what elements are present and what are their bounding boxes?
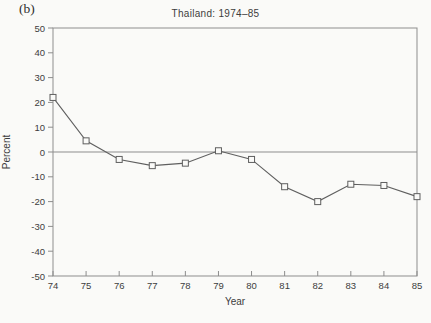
data-point-77 bbox=[149, 163, 155, 169]
data-point-83 bbox=[348, 181, 354, 187]
x-tick-label: 77 bbox=[147, 280, 158, 291]
x-tick-label: 85 bbox=[412, 280, 423, 291]
data-line bbox=[53, 97, 417, 201]
data-point-80 bbox=[249, 156, 255, 162]
data-point-74 bbox=[50, 94, 56, 100]
y-tick-label: -30 bbox=[31, 221, 45, 232]
x-tick-label: 74 bbox=[48, 280, 59, 291]
y-tick-label: 10 bbox=[34, 122, 45, 133]
data-point-78 bbox=[182, 160, 188, 166]
data-point-75 bbox=[83, 138, 89, 144]
y-tick-label: -50 bbox=[31, 271, 45, 282]
data-point-82 bbox=[315, 199, 321, 205]
x-tick-label: 83 bbox=[346, 280, 357, 291]
x-tick-label: 75 bbox=[81, 280, 92, 291]
y-tick-label: 50 bbox=[34, 23, 45, 34]
x-tick-label: 78 bbox=[180, 280, 191, 291]
x-tick-label: 80 bbox=[246, 280, 257, 291]
data-point-79 bbox=[215, 148, 221, 154]
chart-canvas: 50403020100-10-20-30-40-5074757677787980… bbox=[0, 0, 431, 323]
data-point-85 bbox=[414, 194, 420, 200]
y-tick-label: -10 bbox=[31, 171, 45, 182]
chart-title: Thailand: 1974–85 bbox=[0, 8, 431, 19]
y-tick-label: -20 bbox=[31, 196, 45, 207]
data-point-81 bbox=[282, 184, 288, 190]
x-tick-label: 84 bbox=[379, 280, 390, 291]
y-tick-label: 30 bbox=[34, 72, 45, 83]
y-tick-label: 20 bbox=[34, 97, 45, 108]
x-tick-label: 79 bbox=[213, 280, 224, 291]
x-tick-label: 76 bbox=[114, 280, 125, 291]
data-point-76 bbox=[116, 156, 122, 162]
y-axis-label: Percent bbox=[1, 123, 13, 181]
y-tick-label: 0 bbox=[40, 147, 45, 158]
x-tick-label: 82 bbox=[312, 280, 323, 291]
x-axis-label: Year bbox=[53, 296, 417, 307]
y-tick-label: 40 bbox=[34, 47, 45, 58]
x-tick-label: 81 bbox=[279, 280, 290, 291]
figure: 50403020100-10-20-30-40-5074757677787980… bbox=[0, 0, 431, 323]
data-point-84 bbox=[381, 182, 387, 188]
y-tick-label: -40 bbox=[31, 246, 45, 257]
